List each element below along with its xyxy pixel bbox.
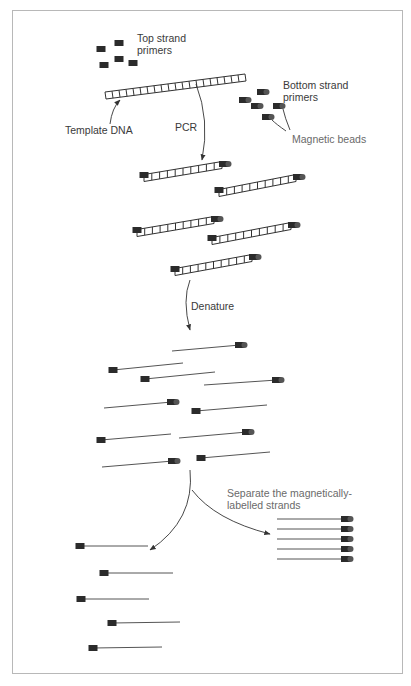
label-magnetic-beads: Magnetic beads: [292, 133, 366, 145]
bead-leader-1: [272, 120, 286, 131]
pcr-arrow: [196, 84, 205, 160]
bottom-strand-primers: [239, 89, 286, 120]
denatured-strands: [97, 342, 285, 467]
denature-arrow: [186, 280, 190, 330]
label-template-dna: Template DNA: [65, 124, 133, 136]
template-leader-arrow: [110, 100, 120, 124]
template-dna-ladder: [105, 74, 246, 99]
label-top-strand-primers: Top strand primers: [137, 32, 186, 56]
remaining-strands: [76, 543, 181, 651]
separated-bead-strands: [277, 516, 354, 562]
dna-diagram: [0, 0, 411, 686]
bead-leader-2: [283, 109, 290, 130]
label-denature: Denature: [191, 300, 234, 312]
label-pcr: PCR: [175, 121, 197, 133]
leader-lines: [110, 84, 290, 550]
pcr-products: [133, 161, 306, 276]
label-bottom-strand-primers: Bottom strand primers: [283, 79, 348, 103]
label-separate-strands: Separate the magnetically- labelled stra…: [227, 487, 352, 511]
remaining-arrow: [150, 470, 191, 550]
top-strand-primers: [97, 40, 138, 68]
